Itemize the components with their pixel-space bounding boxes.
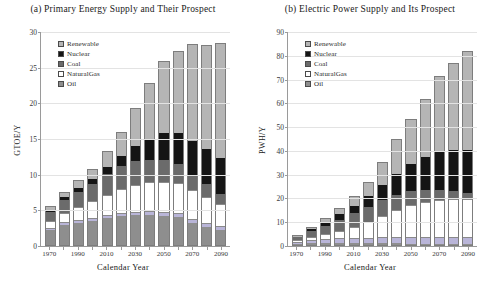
legend-item-oil: Oil — [58, 80, 100, 88]
bar-segment-gas — [216, 204, 225, 227]
stacked-bar[interactable] — [201, 45, 212, 246]
legend-label-renewable: Renewable — [314, 40, 346, 48]
bar-segment-renewable — [463, 52, 472, 150]
x-axis-tick-label: 2090 — [214, 250, 228, 258]
chart-title-a: (a) Primary Energy Supply and Their Pros… — [0, 4, 246, 14]
gridline — [41, 175, 230, 176]
stacked-bar[interactable] — [45, 206, 56, 246]
legend-item-renewable: Renewable — [305, 40, 347, 48]
stacked-bar[interactable] — [363, 182, 374, 246]
bar-segment-oil — [449, 244, 458, 245]
plot-area-a: 051015202530 Renewable Nuclear Coal Natu… — [40, 32, 230, 247]
legend-swatch-nuclear-icon — [305, 51, 311, 57]
bar-segment-oil — [335, 243, 344, 245]
legend-swatch-naturalgas-icon — [58, 71, 64, 77]
stacked-bar[interactable] — [391, 139, 402, 246]
stacked-bar[interactable] — [73, 180, 84, 246]
stacked-bar[interactable] — [334, 208, 345, 246]
x-axis-slot — [361, 247, 375, 261]
stacked-bar[interactable] — [87, 169, 98, 246]
stacked-bar[interactable] — [130, 108, 141, 246]
bar-segment-oil — [406, 244, 415, 245]
stacked-bar[interactable] — [420, 99, 431, 246]
x-axis-slot: 2010 — [99, 247, 113, 261]
stacked-bar[interactable] — [102, 151, 113, 246]
x-axis-tick-label: 2070 — [185, 250, 199, 258]
stacked-bar[interactable] — [292, 235, 303, 246]
legend-swatch-nuclear-icon — [58, 51, 64, 57]
bar-segment-oil — [421, 244, 430, 245]
legend-label-renewable: Renewable — [67, 40, 99, 48]
y-axis-tick-mark — [285, 222, 288, 223]
stacked-bar[interactable] — [448, 63, 459, 246]
stacked-bar[interactable] — [349, 196, 360, 246]
x-axis-slot — [142, 247, 156, 261]
bar-segment-nuclear — [131, 146, 140, 161]
x-axis-tick-label: 1970 — [289, 250, 303, 258]
x-axis-tick-label: 1990 — [318, 250, 332, 258]
y-axis-tick-label: 90 — [277, 28, 285, 37]
bar-segment-nuclear — [421, 157, 430, 190]
bar-segment-gas — [364, 222, 373, 239]
legend-a: Renewable Nuclear Coal NaturalGas Oil — [58, 40, 100, 88]
bar-segment-gas — [421, 202, 430, 238]
y-axis-tick-label: 25 — [30, 63, 38, 72]
stacked-bar[interactable] — [306, 227, 317, 246]
bar-segment-coal — [364, 207, 373, 222]
gridline — [41, 210, 230, 211]
bar-segment-gas — [74, 207, 83, 221]
bar-segment-renewable — [392, 140, 401, 173]
legend-swatch-coal-icon — [58, 61, 64, 67]
bar-segment-coal — [392, 195, 401, 210]
y-axis-tick-label: 70 — [277, 75, 285, 84]
stacked-bar[interactable] — [173, 51, 184, 246]
bar-segment-oil — [216, 230, 225, 245]
bar-segment-gas — [131, 185, 140, 213]
bar-segment-nuclear — [174, 133, 183, 164]
stacked-bar[interactable] — [158, 61, 169, 246]
bar-segment-coal — [74, 192, 83, 207]
gridline — [41, 103, 230, 104]
chart-panel-primary-energy: (a) Primary Energy Supply and Their Pros… — [0, 0, 246, 292]
bar-segment-nuclear — [449, 150, 458, 191]
bar-segment-renewable — [159, 62, 168, 134]
y-axis-tick-mark — [38, 32, 41, 33]
y-axis-tick-label: 0 — [33, 242, 37, 251]
x-axis-slot: 2070 — [432, 247, 446, 261]
legend-label-nuclear: Nuclear — [67, 50, 90, 58]
y-axis-tick-mark — [38, 210, 41, 211]
x-axis-slot — [85, 247, 99, 261]
stacked-bar[interactable] — [187, 44, 198, 246]
bar-segment-renewable — [103, 152, 112, 167]
x-axis-slot: 1970 — [42, 247, 56, 261]
y-axis-tick-label: 30 — [277, 170, 285, 179]
y-axis-tick-mark — [38, 103, 41, 104]
bar-segment-nuclear — [103, 167, 112, 174]
bar-segment-oil — [392, 243, 401, 245]
y-axis-tick-label: 15 — [30, 135, 38, 144]
bar-segment-oil — [435, 244, 444, 245]
x-axis-slot: 2030 — [128, 247, 142, 261]
x-axis-slot — [446, 247, 460, 261]
stacked-bar[interactable] — [215, 43, 226, 246]
stacked-bar[interactable] — [59, 192, 70, 246]
stacked-bar[interactable] — [144, 83, 155, 246]
bar-segment-nuclear — [216, 158, 225, 194]
y-axis-tick-mark — [38, 139, 41, 140]
legend-label-coal: Coal — [314, 60, 328, 68]
legend-item-nuclear: Nuclear — [58, 50, 100, 58]
bar-segment-gas — [60, 213, 69, 224]
bar-segment-oil — [159, 216, 168, 245]
legend-swatch-renewable-icon — [58, 41, 64, 47]
bar-slot — [418, 32, 432, 246]
stacked-bar[interactable] — [405, 119, 416, 246]
x-axis-ticks-a: 1970199020102030205020702090 — [40, 247, 230, 261]
stacked-bar[interactable] — [434, 76, 445, 246]
y-axis-label-a: GTOE/Y — [13, 124, 22, 156]
bar-segment-coal — [174, 164, 183, 183]
bar-slot — [290, 32, 304, 246]
bar-segment-nuclear — [188, 141, 197, 175]
plot-area-b: 0102030405060708090 Renewable Nuclear Co… — [287, 32, 477, 247]
stacked-bar[interactable] — [116, 132, 127, 246]
legend-b: Renewable Nuclear Coal NaturalGas Oil — [305, 40, 347, 88]
